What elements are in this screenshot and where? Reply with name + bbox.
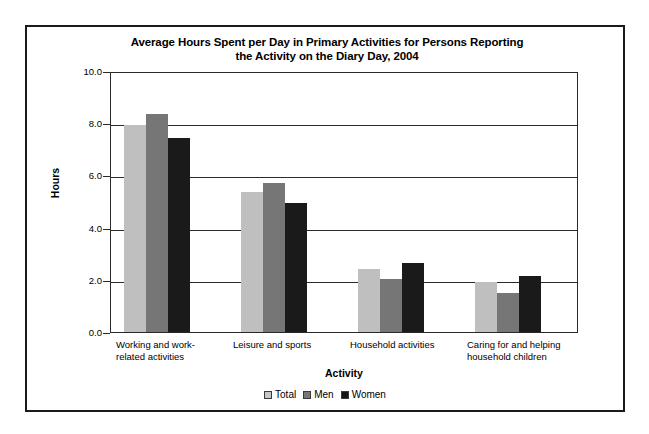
chart-legend: TotalMenWomen <box>27 389 623 400</box>
bar-women-1 <box>168 138 190 332</box>
legend-item-women: Women <box>341 389 386 400</box>
bar-group <box>475 73 541 332</box>
legend-swatch-men-icon <box>303 391 311 399</box>
bar-total-4 <box>475 282 497 332</box>
plot-area <box>110 72 578 333</box>
legend-label: Women <box>352 389 386 400</box>
bar-men-2 <box>263 183 285 332</box>
y-axis-tick-label: 8.0 <box>62 119 102 129</box>
x-axis-category-label: Caring for and helpinghousehold children <box>467 339 580 362</box>
x-axis-title: Activity <box>110 367 578 379</box>
y-axis-tick-mark <box>103 229 110 230</box>
y-axis-tick-label: 0.0 <box>62 328 102 338</box>
chart-frame: Average Hours Spent per Day in Primary A… <box>25 25 625 412</box>
y-axis-tick-label: 2.0 <box>62 276 102 286</box>
y-axis-title: Hours <box>49 153 61 213</box>
x-axis-category-label: Household activities <box>350 339 463 351</box>
bar-total-1 <box>124 125 146 332</box>
legend-swatch-women-icon <box>341 391 349 399</box>
bar-total-2 <box>241 192 263 332</box>
x-axis-category-label-line: related activities <box>116 351 229 363</box>
x-axis-category-label-line: household children <box>467 351 580 363</box>
legend-item-total: Total <box>264 389 296 400</box>
chart-title: Average Hours Spent per Day in Primary A… <box>67 35 587 63</box>
legend-label: Total <box>275 389 296 400</box>
chart-title-line-1: Average Hours Spent per Day in Primary A… <box>67 35 587 49</box>
y-axis-tick-label: 4.0 <box>62 224 102 234</box>
bar-men-1 <box>146 114 168 332</box>
bar-women-3 <box>402 263 424 332</box>
bar-women-2 <box>285 203 307 332</box>
x-axis-category-label: Leisure and sports <box>233 339 346 351</box>
y-axis-tick-label: 10.0 <box>62 67 102 77</box>
y-axis-tick-mark <box>103 124 110 125</box>
bar-group <box>124 73 190 332</box>
bar-men-3 <box>380 279 402 333</box>
legend-swatch-total-icon <box>264 391 272 399</box>
x-axis-category-label: Working and work-related activities <box>116 339 229 362</box>
x-axis-category-label-line: Caring for and helping <box>467 339 580 351</box>
x-axis-category-label-line: Leisure and sports <box>233 339 346 351</box>
chart-page: Average Hours Spent per Day in Primary A… <box>0 0 649 434</box>
bar-women-4 <box>519 276 541 332</box>
y-axis-tick-mark <box>103 333 110 334</box>
x-axis-category-label-line: Working and work- <box>116 339 229 351</box>
chart-title-line-2: the Activity on the Diary Day, 2004 <box>67 49 587 63</box>
legend-label: Men <box>314 389 333 400</box>
bar-group <box>241 73 307 332</box>
bar-men-4 <box>497 293 519 332</box>
y-axis-tick-mark <box>103 176 110 177</box>
bar-group <box>358 73 424 332</box>
bar-total-3 <box>358 269 380 332</box>
y-axis-tick-label: 6.0 <box>62 171 102 181</box>
y-axis-tick-mark <box>103 281 110 282</box>
legend-item-men: Men <box>303 389 333 400</box>
x-axis-category-label-line: Household activities <box>350 339 463 351</box>
y-axis-tick-mark <box>103 72 110 73</box>
